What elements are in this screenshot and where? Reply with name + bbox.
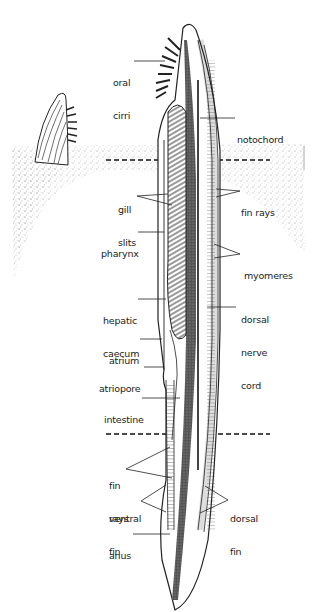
label-line: intestine bbox=[104, 414, 144, 425]
label-pharynx: pharynx bbox=[101, 226, 139, 270]
label-line: anus bbox=[109, 550, 131, 561]
label-line: dorsal bbox=[241, 314, 269, 325]
label-line: myomeres bbox=[244, 270, 293, 281]
label-intestine: intestine bbox=[104, 392, 144, 436]
label-line: fin bbox=[230, 546, 258, 557]
label-line: cord bbox=[241, 380, 269, 391]
label-line: dorsal bbox=[230, 513, 258, 524]
label-line: gill bbox=[118, 204, 136, 215]
label-dorsal-fin: dorsal fin bbox=[230, 491, 258, 568]
label-line: nerve bbox=[241, 347, 269, 358]
lancelet-diagram bbox=[0, 0, 318, 612]
label-line: notochord bbox=[237, 134, 283, 145]
lancelet-body bbox=[156, 24, 220, 610]
label-oral-cirri: oral cirri bbox=[113, 55, 130, 132]
label-myomeres: myomeres bbox=[244, 248, 293, 292]
label-line: ventral bbox=[109, 513, 141, 524]
label-line: hepatic bbox=[103, 315, 139, 326]
label-line: pharynx bbox=[101, 248, 139, 259]
label-line: fin bbox=[109, 480, 129, 491]
label-line: cirri bbox=[113, 110, 130, 121]
label-notochord: notochord bbox=[237, 112, 283, 156]
label-fin-rays-upper: fin rays bbox=[241, 185, 275, 229]
label-line: oral bbox=[113, 77, 130, 88]
label-dorsal-nerve-cord: dorsal nerve cord bbox=[241, 292, 269, 402]
label-line: fin rays bbox=[241, 207, 275, 218]
label-anus: anus bbox=[109, 528, 131, 572]
